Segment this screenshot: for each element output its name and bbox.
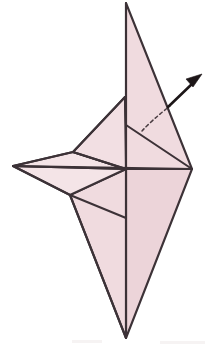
- origami-diagram: [0, 0, 210, 346]
- scan-smudge-left: [72, 340, 102, 343]
- origami-figure-container: [0, 0, 210, 346]
- scan-smudge-right: [160, 341, 205, 344]
